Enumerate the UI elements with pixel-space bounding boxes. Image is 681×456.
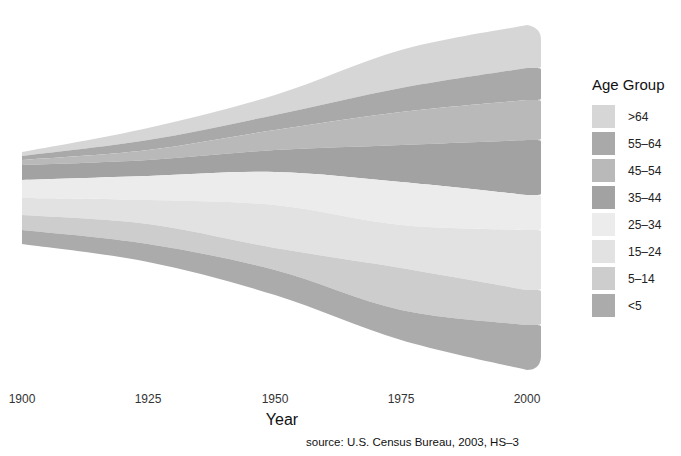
- legend-item-5-14: 5–14: [592, 265, 665, 292]
- legend: Age Group >64 55–64 45–54 35–44 25–34 15…: [592, 76, 665, 319]
- legend-label: >64: [628, 110, 648, 124]
- legend-item-35-44: 35–44: [592, 184, 665, 211]
- streamgraph-plot: [0, 0, 681, 456]
- legend-label: <5: [628, 299, 642, 313]
- legend-item-25-34: 25–34: [592, 211, 665, 238]
- legend-item-45-54: 45–54: [592, 157, 665, 184]
- legend-swatch: [592, 105, 615, 128]
- legend-swatch: [592, 240, 615, 263]
- x-tick-1900: 1900: [9, 392, 36, 406]
- legend-swatch: [592, 213, 615, 236]
- x-axis-label: Year: [266, 411, 298, 429]
- x-tick-1975: 1975: [388, 392, 415, 406]
- legend-items: >64 55–64 45–54 35–44 25–34 15–24 5–14 <…: [592, 103, 665, 319]
- legend-label: 35–44: [628, 191, 661, 205]
- legend-title: Age Group: [592, 76, 665, 93]
- legend-item-over-64: >64: [592, 103, 665, 130]
- x-tick-1950: 1950: [262, 392, 289, 406]
- legend-label: 45–54: [628, 164, 661, 178]
- x-tick-2000: 2000: [514, 392, 541, 406]
- legend-swatch: [592, 294, 615, 317]
- legend-swatch: [592, 267, 615, 290]
- x-tick-1925: 1925: [135, 392, 162, 406]
- legend-item-55-64: 55–64: [592, 130, 665, 157]
- stream-layers: [22, 25, 541, 370]
- legend-swatch: [592, 132, 615, 155]
- legend-label: 15–24: [628, 245, 661, 259]
- legend-label: 55–64: [628, 137, 661, 151]
- source-caption: source: U.S. Census Bureau, 2003, HS–3: [306, 436, 519, 448]
- legend-label: 25–34: [628, 218, 661, 232]
- legend-swatch: [592, 186, 615, 209]
- legend-item-under-5: <5: [592, 292, 665, 319]
- legend-label: 5–14: [628, 272, 655, 286]
- legend-swatch: [592, 159, 615, 182]
- legend-item-15-24: 15–24: [592, 238, 665, 265]
